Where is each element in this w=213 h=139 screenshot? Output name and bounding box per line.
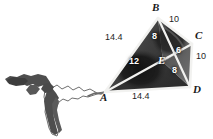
map-silhouette-group [5, 74, 105, 136]
figure-screenshot: A B C D E 14.4 10 10 14.4 12 6 8 8 [0, 0, 213, 139]
map-silhouette-connector [88, 92, 105, 96]
geometry-figure [0, 0, 213, 139]
